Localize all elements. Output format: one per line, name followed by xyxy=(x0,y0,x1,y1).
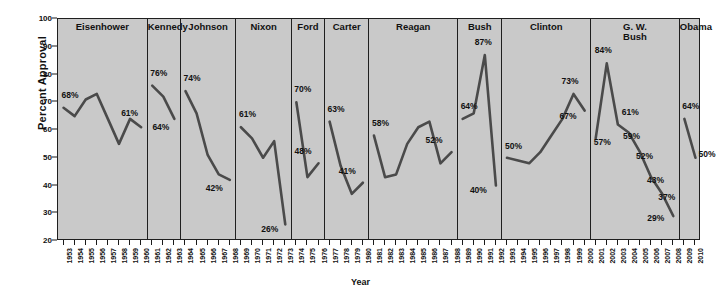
x-tick-1990: 1990 xyxy=(476,248,483,264)
y-tick-50: 50 xyxy=(26,152,52,161)
x-tick-1969: 1969 xyxy=(243,248,250,264)
x-tick-mark xyxy=(617,240,618,245)
x-tick-2000: 2000 xyxy=(587,248,594,264)
x-tick-1954: 1954 xyxy=(77,248,84,264)
x-tick-mark xyxy=(561,240,562,245)
x-tick-1976: 1976 xyxy=(321,248,328,264)
x-tick-1983: 1983 xyxy=(398,248,405,264)
x-tick-mark xyxy=(295,240,296,245)
x-tick-1972: 1972 xyxy=(276,248,283,264)
x-tick-mark xyxy=(140,240,141,245)
x-tick-mark xyxy=(384,240,385,245)
x-tick-1981: 1981 xyxy=(376,248,383,264)
x-tick-mark xyxy=(606,240,607,245)
x-tick-mark xyxy=(74,240,75,245)
x-tick-mark xyxy=(683,240,684,245)
x-tick-1955: 1955 xyxy=(88,248,95,264)
x-tick-1999: 1999 xyxy=(576,248,583,264)
x-tick-mark xyxy=(284,240,285,245)
point-label-2007: 37% xyxy=(658,192,675,202)
x-tick-mark xyxy=(573,240,574,245)
point-label-1992: 40% xyxy=(470,185,487,195)
point-label-2000: 67% xyxy=(560,111,577,121)
line-reagan xyxy=(374,122,452,177)
x-tick-1987: 1987 xyxy=(442,248,449,264)
plot-area: EisenhowerKennedyJohnsonNixonFordCarterR… xyxy=(57,18,700,240)
x-tick-1988: 1988 xyxy=(454,248,461,264)
x-tick-mark xyxy=(96,240,97,245)
y-tick-mark xyxy=(52,156,57,157)
y-tick-80: 80 xyxy=(26,69,52,78)
x-tick-1977: 1977 xyxy=(332,248,339,264)
x-tick-2009: 2009 xyxy=(686,248,693,264)
y-tick-mark xyxy=(52,184,57,185)
x-tick-mark xyxy=(550,240,551,245)
x-tick-mark xyxy=(85,240,86,245)
x-tick-1984: 1984 xyxy=(409,248,416,264)
x-tick-1996: 1996 xyxy=(542,248,549,264)
x-tick-2001: 2001 xyxy=(598,248,605,264)
x-tick-1997: 1997 xyxy=(553,248,560,264)
x-tick-1992: 1992 xyxy=(498,248,505,264)
x-tick-1993: 1993 xyxy=(509,248,516,264)
x-tick-mark xyxy=(362,240,363,245)
point-label-1980: 41% xyxy=(339,166,356,176)
y-tick-mark xyxy=(52,45,57,46)
x-tick-2006: 2006 xyxy=(653,248,660,264)
y-tick-70: 70 xyxy=(26,97,52,106)
x-tick-1957: 1957 xyxy=(110,248,117,264)
x-tick-mark xyxy=(162,240,163,245)
point-label-2003: 61% xyxy=(622,107,639,117)
x-tick-mark xyxy=(107,240,108,245)
x-tick-mark xyxy=(329,240,330,245)
y-tick-30: 30 xyxy=(26,208,52,217)
point-label-1963: 64% xyxy=(152,122,169,132)
x-tick-1961: 1961 xyxy=(154,248,161,264)
x-tick-2003: 2003 xyxy=(620,248,627,264)
line-nixon xyxy=(241,127,285,224)
x-tick-1962: 1962 xyxy=(165,248,172,264)
x-tick-mark xyxy=(650,240,651,245)
point-label-2010: 50% xyxy=(698,149,715,159)
x-tick-mark xyxy=(318,240,319,245)
line-clinton xyxy=(507,94,585,163)
x-tick-1980: 1980 xyxy=(365,248,372,264)
x-tick-mark xyxy=(63,240,64,245)
x-tick-mark xyxy=(694,240,695,245)
x-tick-mark xyxy=(351,240,352,245)
x-tick-1991: 1991 xyxy=(487,248,494,264)
x-tick-mark xyxy=(151,240,152,245)
point-label-1953: 68% xyxy=(62,90,79,100)
x-tick-mark xyxy=(273,240,274,245)
x-tick-1973: 1973 xyxy=(287,248,294,264)
x-axis-title: Year xyxy=(0,277,721,287)
point-label-1993: 50% xyxy=(505,141,522,151)
x-tick-mark xyxy=(584,240,585,245)
x-tick-1959: 1959 xyxy=(132,248,139,264)
x-tick-mark xyxy=(672,240,673,245)
x-tick-1967: 1967 xyxy=(221,248,228,264)
x-tick-1995: 1995 xyxy=(531,248,538,264)
point-label-2004: 59% xyxy=(623,131,640,141)
y-tick-mark xyxy=(52,129,57,130)
x-tick-1966: 1966 xyxy=(210,248,217,264)
point-label-1960: 61% xyxy=(121,108,138,118)
x-tick-mark xyxy=(129,240,130,245)
x-tick-1998: 1998 xyxy=(564,248,571,264)
x-tick-1953: 1953 xyxy=(66,248,73,264)
x-tick-mark xyxy=(306,240,307,245)
point-label-2005: 52% xyxy=(636,151,653,161)
x-tick-mark xyxy=(218,240,219,245)
x-tick-1982: 1982 xyxy=(387,248,394,264)
x-tick-mark xyxy=(517,240,518,245)
y-tick-60: 60 xyxy=(26,125,52,134)
x-tick-2008: 2008 xyxy=(675,248,682,264)
x-tick-mark xyxy=(373,240,374,245)
x-tick-2002: 2002 xyxy=(609,248,616,264)
x-tick-mark xyxy=(184,240,185,245)
line-ford xyxy=(296,102,318,177)
x-tick-mark xyxy=(473,240,474,245)
x-tick-mark xyxy=(661,240,662,245)
x-tick-2010: 2010 xyxy=(697,248,704,264)
x-tick-mark xyxy=(118,240,119,245)
